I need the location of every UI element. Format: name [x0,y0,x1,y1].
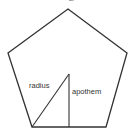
radius-label: radius [29,82,49,90]
pentagon-figure [0,0,133,137]
pentagon-diagram: Z radius apothem [0,0,133,137]
apothem-label: apothem [72,88,101,96]
pentagon-outline [8,9,127,127]
top-label: Z [69,0,74,3]
